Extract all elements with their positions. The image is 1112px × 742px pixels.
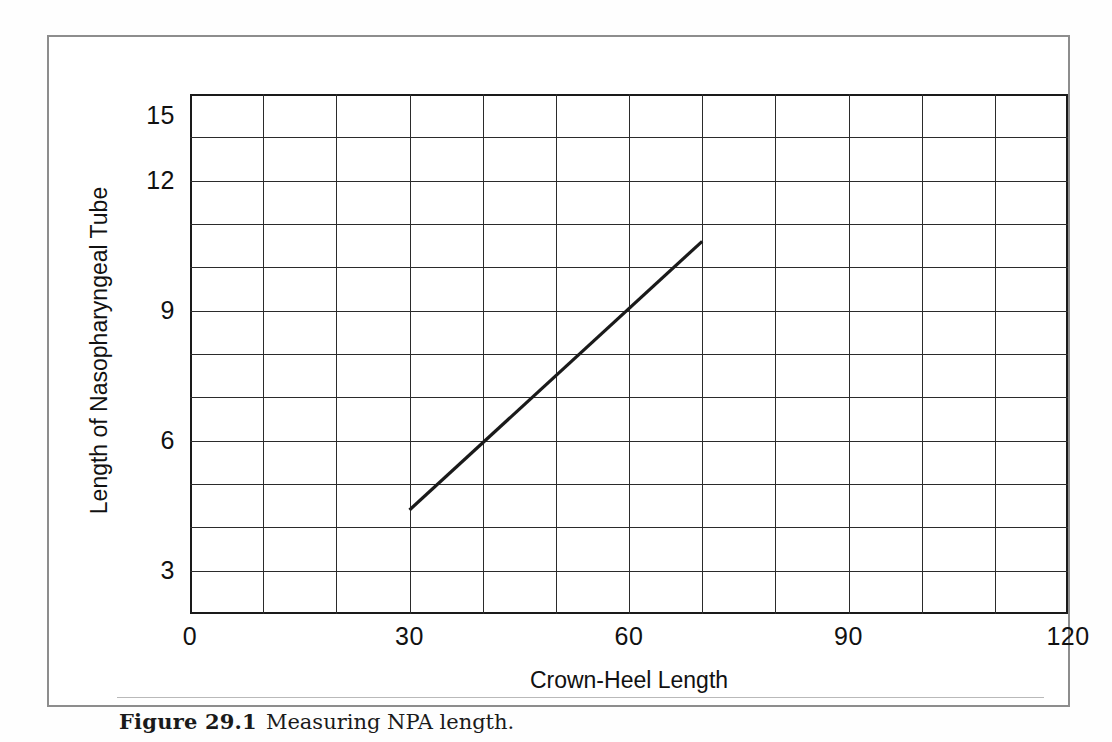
- y-tick-label-15: 15: [146, 101, 175, 130]
- x-axis-title: Crown-Heel Length: [190, 667, 1068, 694]
- x-tick-label-60: 60: [615, 622, 644, 651]
- figure-page: Length of Nasopharyngeal Tube 15 12 9 6 …: [0, 0, 1112, 742]
- y-axis-tick-labels: 15 12 9 6 3: [109, 94, 179, 614]
- x-tick-label-30: 30: [395, 622, 424, 651]
- figure-frame: Length of Nasopharyngeal Tube 15 12 9 6 …: [47, 35, 1070, 707]
- caption-text: Measuring NPA length.: [266, 710, 514, 734]
- x-axis-tick-labels: 0 30 60 90 120: [190, 622, 1068, 662]
- figure-caption: Figure 29.1Measuring NPA length.: [119, 709, 514, 734]
- x-tick-label-90: 90: [834, 622, 863, 651]
- x-tick-label-120: 120: [1046, 622, 1089, 651]
- caption-divider: [117, 697, 1044, 698]
- y-tick-label-3: 3: [161, 556, 175, 585]
- y-tick-label-9: 9: [161, 296, 175, 325]
- data-series-line: [190, 94, 1068, 614]
- y-tick-label-12: 12: [146, 166, 175, 195]
- y-tick-label-6: 6: [161, 426, 175, 455]
- x-tick-label-0: 0: [183, 622, 197, 651]
- plot-area: [190, 94, 1068, 614]
- caption-number: Figure 29.1: [119, 709, 257, 734]
